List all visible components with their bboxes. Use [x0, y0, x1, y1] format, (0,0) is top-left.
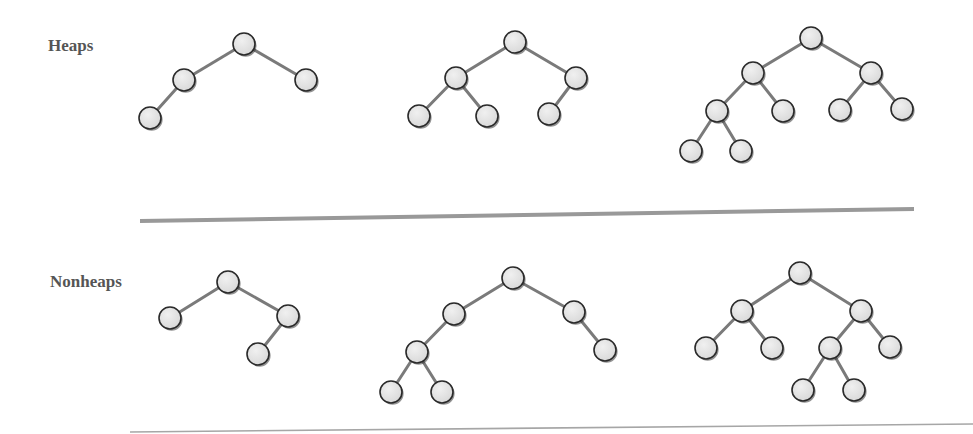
tree-node: [233, 33, 255, 55]
tree-node: [772, 100, 794, 122]
tree-node: [159, 307, 181, 329]
tree-node: [850, 300, 872, 322]
tree-node: [761, 337, 783, 359]
tree-node: [431, 381, 453, 403]
tree-heap-1: [139, 33, 319, 131]
tree-node: [860, 62, 882, 84]
tree-diagram: [0, 0, 973, 434]
tree-nonheap-2: [380, 267, 618, 405]
tree-node: [380, 381, 402, 403]
tree-node: [819, 337, 841, 359]
tree-node: [295, 69, 317, 91]
tree-node: [408, 105, 430, 127]
tree-node: [445, 67, 467, 89]
tree-node: [277, 305, 299, 327]
tree-node: [731, 300, 753, 322]
bottom-rule: [130, 424, 973, 432]
tree-node: [139, 107, 161, 129]
tree-node: [538, 103, 560, 125]
tree-node: [879, 336, 901, 358]
tree-node: [891, 98, 913, 120]
tree-node: [695, 337, 717, 359]
tree-node: [680, 140, 702, 162]
tree-node: [730, 140, 752, 162]
tree-node: [800, 27, 822, 49]
tree-node: [443, 303, 465, 325]
tree-node: [563, 301, 585, 323]
tree-node: [706, 100, 728, 122]
tree-node: [217, 271, 239, 293]
tree-node: [792, 379, 814, 401]
tree-node: [476, 105, 498, 127]
tree-node: [789, 262, 811, 284]
tree-nonheap-3: [695, 262, 903, 403]
tree-heap-2: [408, 31, 589, 129]
tree-node: [843, 379, 865, 401]
tree-node: [829, 99, 851, 121]
section-divider: [140, 209, 914, 221]
tree-node: [406, 341, 428, 363]
tree-node: [742, 62, 764, 84]
tree-node: [594, 339, 616, 361]
tree-node: [173, 69, 195, 91]
tree-heap-3: [680, 27, 915, 164]
tree-node: [504, 31, 526, 53]
tree-node: [247, 343, 269, 365]
tree-node: [565, 67, 587, 89]
tree-nonheap-1: [159, 271, 301, 367]
tree-node: [502, 267, 524, 289]
